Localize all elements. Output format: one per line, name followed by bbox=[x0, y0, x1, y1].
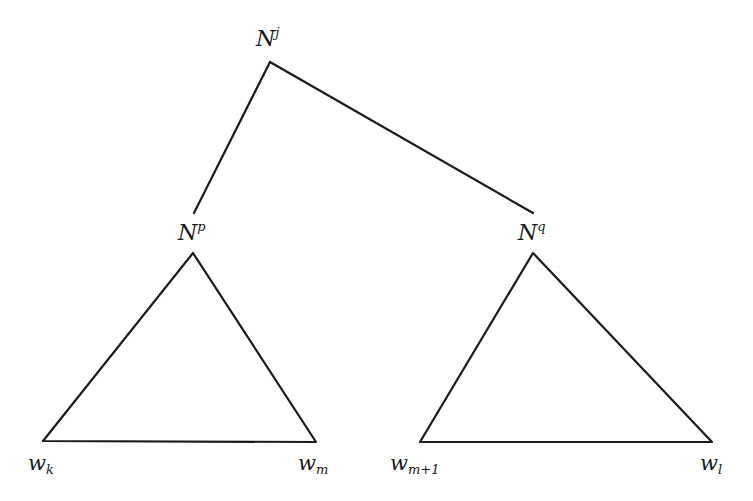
parse-tree-diagram: Nj Np Nq wk wm wm+1 wl bbox=[0, 0, 753, 501]
leaf-label-wk: wk bbox=[28, 451, 54, 477]
node-label-root: Nj bbox=[255, 25, 279, 51]
leaf-label-wl: wl bbox=[700, 451, 722, 477]
edge-root-to-nq bbox=[270, 62, 533, 213]
subtree-triangle-np bbox=[43, 253, 316, 442]
leaf-label-wm1: wm+1 bbox=[390, 451, 439, 477]
leaf-label-wm: wm bbox=[298, 451, 328, 477]
node-label-nq: Nq bbox=[517, 219, 546, 245]
edge-root-to-np bbox=[194, 62, 270, 213]
subtree-triangle-nq bbox=[420, 253, 712, 442]
node-label-np: Np bbox=[177, 219, 206, 245]
